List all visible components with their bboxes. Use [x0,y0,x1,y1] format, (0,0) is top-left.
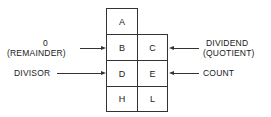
arrow-right-icon [101,46,106,50]
register-l: L [137,86,168,112]
register-e: E [137,60,168,87]
remainder-label: (REMAINDER) [7,48,66,58]
count-arrow-line [173,73,199,74]
divisor-label: DIVISOR [14,68,50,78]
register-b: B [106,34,138,61]
quotient-label: (QUOTIENT) [203,48,255,58]
remainder-arrow-line [80,48,102,49]
divisor-arrow-line [57,73,102,74]
register-d: D [106,60,138,87]
arrow-right-icon [101,71,106,75]
count-label: COUNT [203,68,234,78]
register-h: H [106,86,138,112]
dividend-label: DIVIDEND [206,38,248,48]
register-a: A [106,8,138,35]
remainder-zero-label: 0 [43,38,48,48]
dividend-arrow-line [173,48,199,49]
register-c: C [137,34,168,61]
